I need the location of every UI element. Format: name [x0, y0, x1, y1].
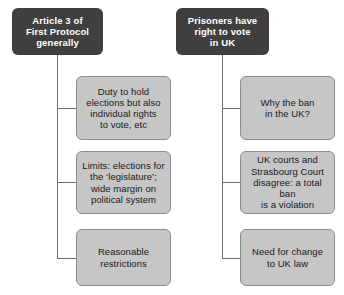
left-child-node-3-label: Reasonable restrictions	[94, 246, 153, 268]
left-branch-stub-1	[57, 108, 76, 109]
left-branch-stub-2	[57, 182, 76, 183]
right-child-node-3[interactable]: Need for change to UK law	[240, 229, 335, 286]
left-column-trunk-line	[57, 55, 58, 259]
left-child-node-1-label: Duty to hold elections but also individu…	[82, 86, 164, 131]
left-child-node-3[interactable]: Reasonable restrictions	[76, 229, 171, 286]
flowchart-canvas: Article 3 of First Protocol generally Du…	[0, 0, 344, 295]
right-branch-stub-3	[222, 258, 240, 259]
right-child-node-3-label: Need for change to UK law	[248, 246, 327, 268]
header-node-left-label: Article 3 of First Protocol generally	[22, 15, 93, 49]
left-child-node-2-label: Limits: elections for the ‘legislature’;…	[78, 160, 168, 205]
right-column-trunk-line	[222, 55, 223, 259]
right-branch-stub-2	[222, 182, 240, 183]
right-child-node-2-label: UK courts and Strasbourg Court disagree:…	[241, 154, 334, 210]
left-child-node-1[interactable]: Duty to hold elections but also individu…	[76, 76, 171, 140]
right-child-node-1-label: Why the ban in the UK?	[257, 97, 319, 119]
right-child-node-2[interactable]: UK courts and Strasbourg Court disagree:…	[240, 151, 335, 214]
header-node-right-label: Prisoners have right to vote in UK	[184, 15, 262, 49]
left-child-node-2[interactable]: Limits: elections for the ‘legislature’;…	[76, 151, 171, 214]
right-branch-stub-1	[222, 108, 240, 109]
header-node-right[interactable]: Prisoners have right to vote in UK	[176, 8, 269, 55]
left-branch-stub-3	[57, 258, 76, 259]
right-child-node-1[interactable]: Why the ban in the UK?	[240, 76, 335, 140]
header-node-left[interactable]: Article 3 of First Protocol generally	[12, 8, 103, 55]
